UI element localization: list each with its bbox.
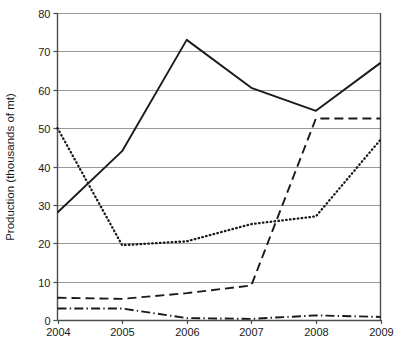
x-tick-label: 2009 xyxy=(369,326,393,338)
y-tick-label: 80 xyxy=(38,8,50,20)
line-chart: 01020304050607080 2004200520062007200820… xyxy=(0,0,401,351)
y-tick-label: 10 xyxy=(38,277,50,289)
x-tick-label: 2007 xyxy=(239,326,263,338)
x-tick-label: 2004 xyxy=(46,326,70,338)
y-tick-label: 50 xyxy=(38,123,50,135)
x-tick-label: 2008 xyxy=(304,326,328,338)
x-tick-label: 2005 xyxy=(110,326,134,338)
y-tick-label: 60 xyxy=(38,85,50,97)
y-axis-tick-labels: 01020304050607080 xyxy=(38,8,50,327)
chart-page: 01020304050607080 2004200520062007200820… xyxy=(0,0,401,351)
y-axis-title: Production (thousands of mt) xyxy=(4,93,16,241)
x-tick-label: 2006 xyxy=(175,326,199,338)
y-tick-label: 20 xyxy=(38,238,50,250)
y-tick-label: 70 xyxy=(38,46,50,58)
y-tick-label: 30 xyxy=(38,200,50,212)
y-tick-label: 0 xyxy=(44,315,50,327)
y-tick-label: 40 xyxy=(38,162,50,174)
